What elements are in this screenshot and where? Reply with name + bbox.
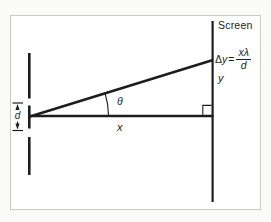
geometry-svg — [0, 0, 271, 222]
equation-equals-sign: = — [228, 53, 234, 65]
d-arrow-down-icon — [15, 124, 19, 130]
slit-separation-label: d — [12, 110, 23, 121]
equation-fraction: xλ d — [236, 47, 250, 71]
equation-denominator: d — [241, 60, 247, 72]
theta-angle-arc — [105, 93, 109, 115]
equation-numerator: xλ — [236, 47, 250, 60]
screen-distance-label: x — [117, 121, 123, 133]
theta-angle-label: θ — [117, 95, 123, 107]
screen-label: Screen — [218, 19, 252, 31]
equation-lhs-variable: y — [222, 53, 227, 65]
ray-to-fringe — [30, 60, 213, 117]
double-slit-geometry-figure: Screen Δy = xλ d y θ x d — [0, 0, 271, 222]
right-angle-marker — [203, 105, 212, 114]
fringe-distance-label: y — [218, 72, 224, 84]
equation-delta-symbol: Δ — [215, 53, 222, 65]
fringe-spacing-equation: Δy = xλ d — [215, 47, 251, 71]
